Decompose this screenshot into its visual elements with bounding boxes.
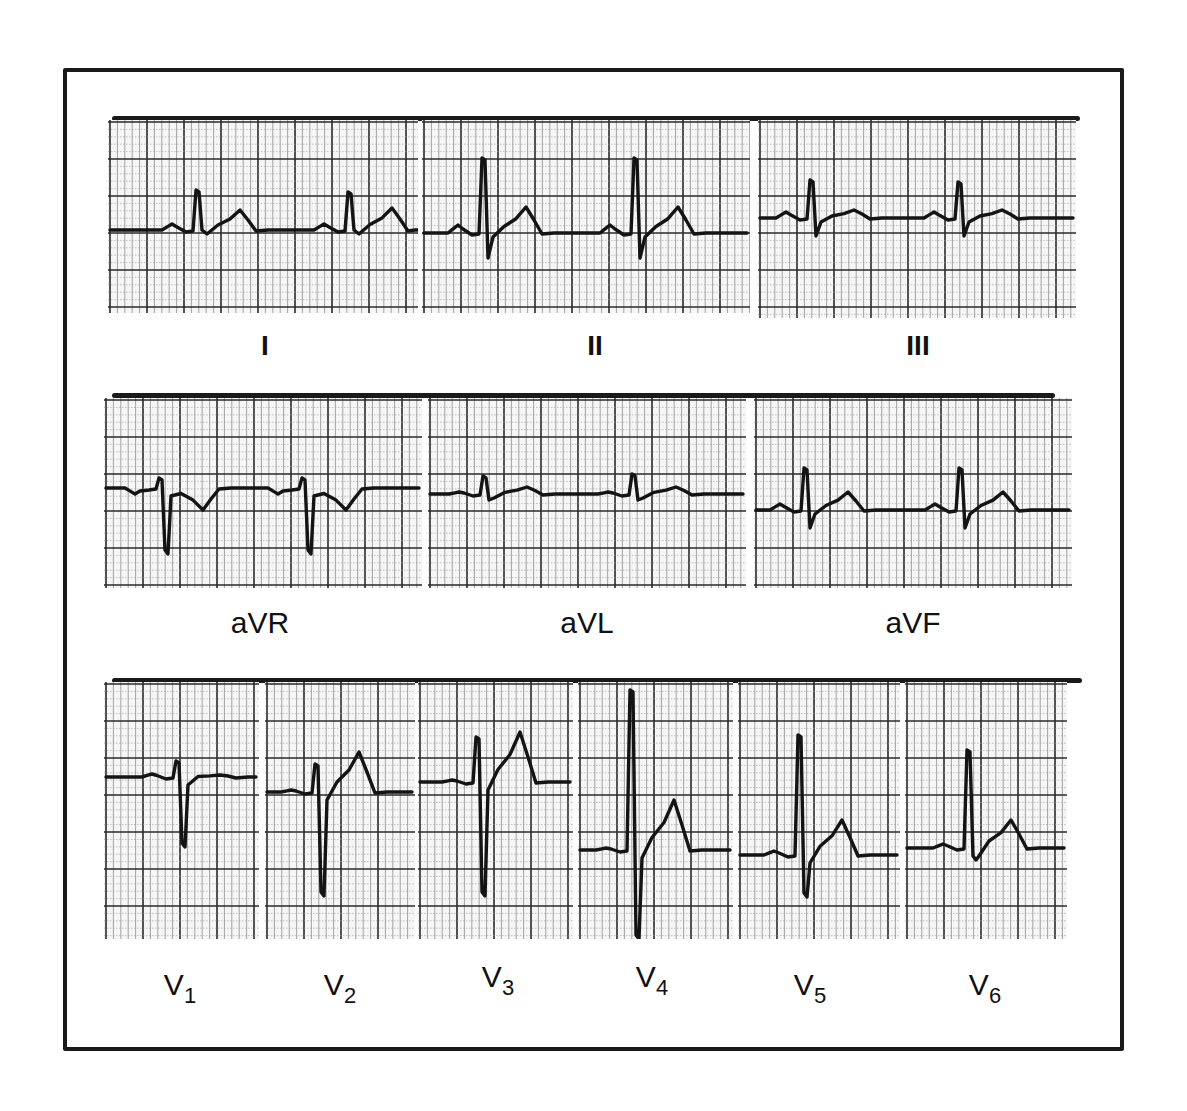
lead-label-avl: aVL bbox=[537, 606, 637, 640]
lead-label-v1: V1 bbox=[130, 968, 230, 1009]
ecg-strip-i bbox=[108, 120, 418, 313]
ecg-grid bbox=[418, 682, 573, 939]
lead-label-i: I bbox=[215, 330, 315, 362]
lead-label-v2: V2 bbox=[290, 968, 390, 1009]
ecg-strip-v1 bbox=[104, 682, 259, 939]
lead-label-v3: V3 bbox=[448, 960, 548, 1001]
ecg-strip-v4 bbox=[578, 682, 733, 939]
lead-label-iii: III bbox=[868, 330, 968, 362]
ecg-grid bbox=[578, 682, 733, 939]
ecg-grid bbox=[428, 398, 746, 588]
ecg-grid bbox=[738, 682, 900, 939]
ecg-strip-avl bbox=[428, 398, 746, 588]
ecg-strip-ii bbox=[422, 120, 750, 313]
lead-label-avr: aVR bbox=[210, 606, 310, 640]
ecg-strip-iii bbox=[758, 120, 1076, 318]
ecg-grid bbox=[265, 682, 415, 939]
ecg-grid bbox=[104, 682, 259, 939]
ecg-grid bbox=[758, 120, 1076, 318]
lead-label-v4: V4 bbox=[602, 960, 702, 1001]
ecg-strip-avr bbox=[104, 398, 422, 588]
ecg-grid bbox=[104, 398, 422, 588]
ecg-strip-v6 bbox=[905, 682, 1067, 939]
lead-label-avf: aVF bbox=[863, 606, 963, 640]
lead-label-v5: V5 bbox=[760, 968, 860, 1009]
ecg-strip-v2 bbox=[265, 682, 415, 939]
ecg-strip-v3 bbox=[418, 682, 573, 939]
ecg-grid bbox=[422, 120, 750, 313]
ecg-grid bbox=[754, 398, 1072, 588]
ecg-grid bbox=[905, 682, 1067, 939]
ecg-strip-avf bbox=[754, 398, 1072, 588]
ecg-grid bbox=[108, 120, 418, 313]
ecg-trace bbox=[424, 158, 747, 258]
ecg-strip-v5 bbox=[738, 682, 900, 939]
lead-label-v6: V6 bbox=[935, 968, 1035, 1009]
lead-label-ii: II bbox=[545, 330, 645, 362]
